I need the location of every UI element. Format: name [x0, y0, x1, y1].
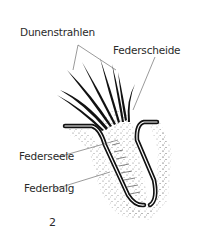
label-federseele: Federseele	[19, 150, 74, 162]
down-barbs	[57, 58, 135, 131]
label-federbalg: Federbalg	[24, 182, 74, 194]
label-dunenstrahlen: Dunenstrahlen	[20, 26, 95, 38]
label-federscheide: Federscheide	[113, 44, 180, 56]
figure-number: 2	[49, 216, 56, 229]
